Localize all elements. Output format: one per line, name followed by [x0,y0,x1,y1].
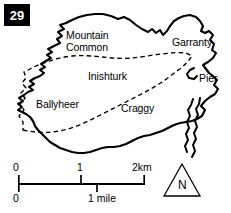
map-label-pier: Pier [199,73,217,85]
scale-label-km-1: 1 [77,162,83,173]
scale-label-km-2: 2km [132,162,152,173]
page-number-badge: 29 [4,4,30,26]
map-label-mountain-common: Mountain Common [66,30,108,53]
map-label-craggy: Craggy [121,103,154,115]
scale-label-mile-0: 0 [13,193,19,204]
inishturk-map-figure: 29 Mountain Common Garranty Inishturk Pi… [0,0,231,213]
scale-label-mile-1: 1 mile [88,193,116,204]
map-label-mountain-common-line1: Mountain [66,30,108,42]
map-label-mountain-common-line2: Common [66,42,108,54]
map-label-inishturk: Inishturk [88,71,127,83]
north-arrow-letter: N [178,178,187,192]
map-label-garranty: Garranty [172,37,212,49]
map-drawing [0,0,231,213]
scale-label-km-0: 0 [13,162,19,173]
map-label-ballyheer: Ballyheer [36,99,79,111]
